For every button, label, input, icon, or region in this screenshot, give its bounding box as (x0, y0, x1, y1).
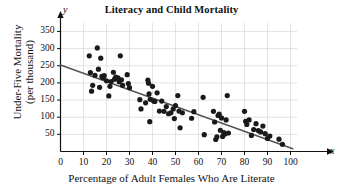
data-point (127, 85, 132, 90)
data-point (258, 129, 263, 134)
data-point (175, 93, 180, 98)
y-tick-label: 350 (29, 25, 55, 35)
data-point (180, 110, 185, 115)
data-point (219, 115, 224, 120)
y-tick-label: 150 (29, 94, 55, 104)
data-point (96, 67, 101, 72)
data-point (251, 127, 256, 132)
data-point (172, 116, 177, 121)
data-point (118, 53, 123, 58)
data-point (87, 53, 92, 58)
data-point (253, 121, 258, 126)
data-point (276, 137, 281, 142)
chart-figure: Literacy and Child Mortality Under-Five … (0, 0, 343, 193)
data-point (260, 124, 265, 129)
data-point (178, 125, 183, 130)
data-point (226, 130, 231, 135)
data-point (97, 85, 102, 90)
data-point (157, 108, 162, 113)
data-point (147, 119, 152, 124)
data-point (191, 109, 196, 114)
data-point (202, 132, 207, 137)
data-point (155, 90, 160, 95)
data-point (164, 104, 169, 109)
x-axis-arrowhead (327, 148, 334, 154)
data-point (173, 103, 178, 108)
y-tick-label: 100 (29, 111, 55, 121)
data-point (201, 95, 206, 100)
data-point (159, 98, 164, 103)
data-point (111, 70, 116, 75)
data-point (189, 116, 194, 121)
data-point (90, 83, 95, 88)
data-point (249, 133, 254, 138)
data-point (98, 56, 103, 61)
data-point (242, 109, 247, 114)
data-point (92, 73, 97, 78)
data-point (107, 84, 112, 89)
data-point (211, 109, 216, 114)
data-point (212, 119, 217, 124)
data-points (87, 45, 285, 147)
data-point (161, 109, 166, 114)
y-tick-label: 250 (29, 60, 55, 70)
data-point (89, 89, 94, 94)
data-point (104, 78, 109, 83)
y-axis-arrowhead (57, 11, 63, 18)
data-point (267, 133, 272, 138)
data-point (120, 83, 125, 88)
y-tick-label: 300 (29, 43, 55, 53)
data-point (224, 117, 229, 122)
data-point (263, 131, 268, 136)
data-point (280, 142, 285, 147)
data-point (214, 134, 219, 139)
data-point (146, 91, 151, 96)
data-point (95, 45, 100, 50)
y-tick-label: 200 (29, 77, 55, 87)
data-point (125, 72, 130, 77)
x-tick-label: 100 (278, 157, 304, 167)
data-point (247, 117, 252, 122)
data-point (138, 106, 143, 111)
data-point (244, 122, 249, 127)
data-point (143, 100, 148, 105)
y-tick-label: 50 (29, 128, 55, 138)
data-point (225, 93, 230, 98)
data-point (137, 97, 142, 102)
data-point (150, 84, 155, 89)
data-point (88, 70, 93, 75)
data-point (106, 93, 111, 98)
data-point (119, 77, 124, 82)
data-point (102, 73, 107, 78)
data-point (152, 99, 157, 104)
